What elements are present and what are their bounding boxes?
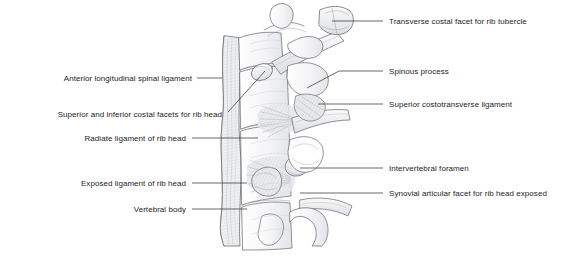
label-superior-costotransverse-ligament: Superior costotransverse ligament [389, 100, 512, 110]
superior-articular-process [270, 4, 293, 29]
label-exposed-ligament-of-rib-head: Exposed ligament of rib head [81, 179, 186, 189]
intervertebral-foramen [288, 137, 323, 173]
label-spinous-process: Spinous process [389, 67, 449, 77]
label-intervertebral-foramen: Intervertebral foramen [389, 164, 469, 174]
rib-head-inferior-exposed [252, 167, 282, 196]
anatomy-figure-page: Anterior longitudinal spinal ligamentSup… [0, 0, 565, 256]
label-superior-and-inferior-costal-facets-for-rib-head: Superior and inferior costal facets for … [58, 110, 222, 120]
label-radiate-ligament-of-rib-head: Radiate ligament of rib head [85, 134, 186, 144]
label-transverse-costal-facet-for-rib-tubercle: Transverse costal facet for rib tubercle [389, 17, 527, 27]
anterior-longitudinal-ligament-band [220, 36, 241, 246]
label-vertebral-body: Vertebral body [134, 205, 186, 215]
label-anterior-longitudinal-spinal-ligament: Anterior longitudinal spinal ligament [64, 74, 192, 84]
rib-tubercle-superior [319, 6, 353, 34]
transverse-process-superior [287, 63, 328, 97]
label-synovial-articular-facet-for-rib-head-exposed: Synovial articular facet for rib head ex… [389, 189, 547, 199]
vertebrae-illustration [0, 0, 565, 256]
